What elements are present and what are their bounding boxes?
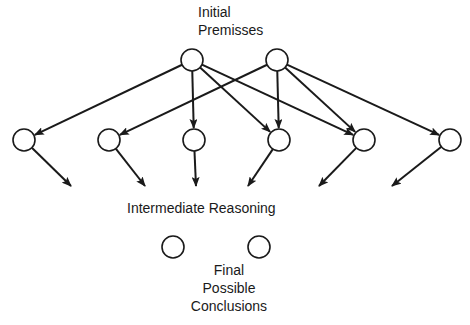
final-conclusions-line-2: Possible: [179, 279, 279, 297]
outgoing-arrow-i4: [248, 149, 273, 186]
final-conclusions-line-1: Final: [179, 261, 279, 279]
edge-arrow-p2-i5: [285, 67, 355, 131]
intermediate-node-i5: [353, 129, 375, 151]
dangling-arrows-layer: [32, 147, 442, 186]
edge-arrow-p1-i1: [35, 65, 182, 135]
outgoing-arrow-i5: [319, 148, 356, 186]
intermediate-node-i4: [268, 129, 290, 151]
premise-node-p2: [266, 49, 288, 71]
initial-premisses-line-2: Premisses: [198, 21, 263, 39]
conclusion-node-c2: [248, 236, 270, 258]
conclusion-node-c1: [162, 236, 184, 258]
edge-arrow-p2-i6: [287, 65, 439, 135]
edge-arrow-p2-i4: [277, 71, 278, 128]
outgoing-arrow-i1: [32, 148, 71, 186]
premise-node-p1: [181, 49, 203, 71]
final-conclusions-label: Final Possible Conclusions: [179, 261, 279, 315]
intermediate-node-i3: [183, 129, 205, 151]
final-conclusions-line-3: Conclusions: [179, 297, 279, 315]
initial-premisses-line-1: Initial: [198, 3, 263, 21]
outgoing-arrow-i6: [392, 147, 441, 186]
intermediate-node-i6: [439, 129, 461, 151]
intermediate-node-i2: [98, 129, 120, 151]
edges-layer: [35, 65, 439, 135]
outgoing-arrow-i3: [194, 151, 196, 186]
intermediate-reasoning-label: Intermediate Reasoning: [127, 199, 276, 217]
outgoing-arrow-i2: [116, 149, 145, 186]
edge-arrow-p1-i4: [200, 67, 270, 131]
initial-premisses-label: Initial Premisses: [198, 3, 263, 39]
intermediate-node-i1: [13, 129, 35, 151]
